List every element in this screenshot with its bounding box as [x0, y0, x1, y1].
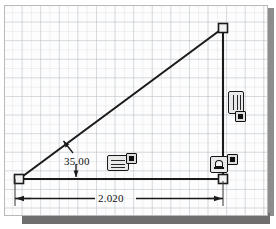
delete-relation-badge-icon[interactable]: [126, 153, 137, 164]
vertex-top-right[interactable]: [219, 24, 228, 33]
length-dimension-value[interactable]: 2.020: [98, 192, 124, 204]
vertex-origin[interactable]: [15, 175, 24, 184]
coincident-relation-icon[interactable]: [210, 156, 228, 173]
relation-marker-coincident[interactable]: [210, 154, 242, 178]
angle-dimension-value[interactable]: 35.00: [64, 155, 90, 167]
relation-marker-horizontal[interactable]: [107, 153, 139, 175]
delete-relation-badge-icon[interactable]: [235, 111, 246, 122]
delete-relation-badge-icon[interactable]: [227, 154, 238, 165]
relation-marker-vertical[interactable]: [227, 91, 255, 129]
sketch-canvas[interactable]: 35.00 2.020: [4, 5, 268, 216]
sketch-application-window: 35.00 2.020: [0, 0, 276, 229]
